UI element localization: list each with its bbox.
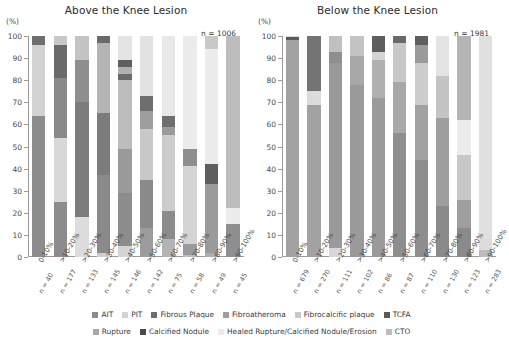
legend-label: AIT <box>101 310 113 319</box>
bar-segment <box>479 36 492 239</box>
stacked-bar[interactable] <box>329 36 342 257</box>
bar-slot <box>325 36 346 257</box>
y-axis-unit-label-right: (%) <box>258 17 271 26</box>
bar-segment <box>75 60 88 102</box>
plot-area-above-knee: 0102030405060708090100 <box>28 36 244 257</box>
y-tick-label: 70 <box>266 98 276 107</box>
legend-item[interactable]: Rupture <box>93 327 131 336</box>
legend-item[interactable]: Fibroatheroma <box>223 310 286 319</box>
bar-segment <box>350 85 363 257</box>
bar-segment <box>140 96 153 111</box>
legend-item[interactable]: CTO <box>386 327 411 336</box>
legend-label: TCFA <box>393 310 411 319</box>
bar-segment <box>140 129 153 180</box>
bar-group-above-knee <box>28 36 244 257</box>
bar-slot <box>475 36 496 257</box>
stacked-bar[interactable] <box>226 36 239 257</box>
bar-slot <box>346 36 367 257</box>
y-tick-label: 80 <box>266 76 276 85</box>
bar-segment <box>32 116 45 257</box>
legend-item[interactable]: Fibrous Plaque <box>151 310 214 319</box>
stacked-bar[interactable] <box>286 36 299 257</box>
bar-segment <box>32 45 45 116</box>
legend-label: Healed Rupture/Calcified Nodule/Erosion <box>227 327 377 336</box>
stacked-bar[interactable] <box>307 36 320 257</box>
bar-segment <box>457 155 470 199</box>
stacked-bar[interactable] <box>350 36 363 257</box>
bar-segment <box>307 36 320 91</box>
bar-segment <box>183 36 196 149</box>
bar-segment <box>436 118 449 206</box>
stacked-bar[interactable] <box>479 36 492 257</box>
legend-swatch-icon <box>386 329 392 335</box>
stacked-bar[interactable] <box>393 36 406 257</box>
bar-segment <box>205 164 218 184</box>
stacked-bar[interactable] <box>162 36 175 257</box>
legend-swatch-icon <box>122 312 128 318</box>
bar-slot <box>453 36 474 257</box>
bar-segment <box>350 36 363 56</box>
stacked-bar[interactable] <box>436 36 449 257</box>
legend-item[interactable]: Healed Rupture/Calcified Nodule/Erosion <box>218 327 377 336</box>
stacked-bar[interactable] <box>372 36 385 257</box>
bar-segment <box>226 208 239 223</box>
legend-swatch-icon <box>218 329 224 335</box>
y-tick-label: 40 <box>266 164 276 173</box>
stacked-bar[interactable] <box>140 36 153 257</box>
legend-item[interactable]: Fibrocalcific plaque <box>295 310 375 319</box>
bar-segment <box>457 36 470 120</box>
bar-slot <box>114 36 136 257</box>
bar-segment <box>226 36 239 208</box>
bar-segment <box>372 60 385 98</box>
bar-segment <box>32 36 45 45</box>
y-tick-label: 60 <box>266 120 276 129</box>
y-tick-label: 50 <box>266 142 276 151</box>
stacked-bar[interactable] <box>415 36 428 257</box>
stacked-bar[interactable] <box>457 36 470 257</box>
bar-segment <box>162 127 175 136</box>
bar-segment <box>415 105 428 160</box>
bar-segment <box>415 63 428 105</box>
plot-area-below-knee: 0102030405060708090100 <box>282 36 496 257</box>
stacked-bar[interactable] <box>75 36 88 257</box>
panel-title-above-knee: Above the Knee Lesion <box>0 4 252 16</box>
stacked-bar[interactable] <box>97 36 110 257</box>
panel-below-knee: Below the Knee Lesion (%) n = 1981 01020… <box>252 0 503 305</box>
bar-segment <box>415 45 428 63</box>
bar-slot <box>432 36 453 257</box>
y-tick-label: 80 <box>12 76 22 85</box>
legend-item[interactable]: Calcified Nodule <box>140 327 209 336</box>
bar-segment <box>329 52 342 63</box>
stacked-bar[interactable] <box>183 36 196 257</box>
stacked-bar[interactable] <box>54 36 67 257</box>
bar-segment <box>350 56 363 85</box>
bar-segment <box>307 91 320 104</box>
legend-label: Rupture <box>102 327 131 336</box>
bar-segment <box>307 105 320 257</box>
legend-swatch-icon <box>140 329 146 335</box>
legend-swatch-icon <box>223 312 229 318</box>
bar-segment <box>286 40 299 257</box>
bar-segment <box>393 82 406 133</box>
bar-segment <box>372 52 385 61</box>
bar-segment <box>457 200 470 229</box>
legend-label: Fibroatheroma <box>232 310 286 319</box>
stacked-bar[interactable] <box>32 36 45 257</box>
legend-swatch-icon <box>384 312 390 318</box>
stacked-bar[interactable] <box>118 36 131 257</box>
bar-segment <box>415 36 428 45</box>
legend-item[interactable]: AIT <box>92 310 113 319</box>
bar-slot <box>368 36 389 257</box>
y-tick-label: 10 <box>12 230 22 239</box>
bar-segment <box>118 74 131 81</box>
stacked-bar[interactable] <box>205 36 218 257</box>
bar-segment <box>54 36 67 45</box>
legend-item[interactable]: TCFA <box>384 310 411 319</box>
bar-segment <box>205 49 218 164</box>
legend-item[interactable]: PIT <box>122 310 142 319</box>
y-tick-label: 50 <box>12 142 22 151</box>
bar-slot <box>303 36 324 257</box>
y-tick-label: 20 <box>12 208 22 217</box>
bar-segment <box>329 36 342 51</box>
